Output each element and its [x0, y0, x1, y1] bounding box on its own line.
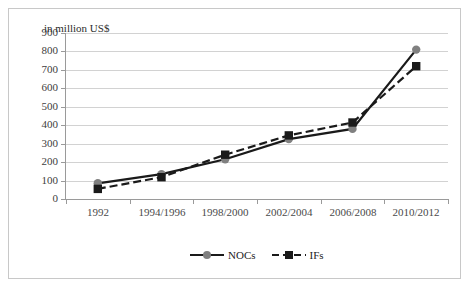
- chart-figure: in million US$ 9008007006005004003002001…: [0, 0, 475, 288]
- series-line-ifs: [98, 66, 416, 189]
- legend-label-ifs: IFs: [310, 249, 324, 261]
- data-point-ifs-1: [157, 173, 165, 181]
- data-point-nocs-5: [412, 45, 420, 53]
- data-point-ifs-5: [412, 62, 420, 70]
- data-point-ifs-4: [348, 118, 356, 126]
- data-point-ifs-3: [285, 131, 293, 139]
- series-line-nocs: [98, 50, 416, 184]
- line-chart: in million US$ 9008007006005004003002001…: [0, 0, 475, 288]
- line-circle-marker-icon: [190, 250, 224, 260]
- series-layer: [0, 0, 475, 288]
- legend-item-nocs: NOCs: [190, 249, 256, 261]
- data-point-ifs-2: [221, 151, 229, 159]
- legend-item-ifs: IFs: [272, 249, 324, 261]
- chart-legend: NOCs IFs: [190, 247, 324, 263]
- legend-label-nocs: NOCs: [228, 249, 256, 261]
- data-point-ifs-0: [94, 185, 102, 193]
- dashed-line-square-marker-icon: [272, 250, 306, 260]
